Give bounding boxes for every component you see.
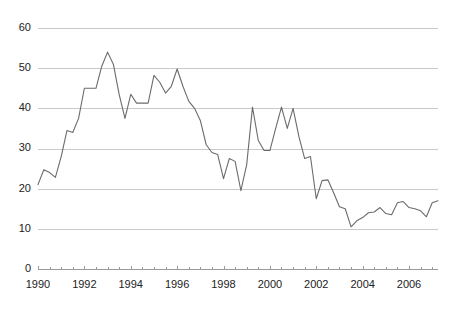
x-axis-tick-labels: 199019921994199619982000200220042006: [26, 278, 421, 290]
x-tick-label-1996: 1996: [165, 278, 189, 290]
x-tick-label-2002: 2002: [304, 278, 328, 290]
x-tick-label-1994: 1994: [119, 278, 143, 290]
y-tick-label-50: 50: [19, 61, 31, 73]
x-tick-label-2006: 2006: [397, 278, 421, 290]
y-axis-tick-labels: 0102030405060: [19, 21, 31, 274]
series-line-1: [38, 52, 438, 227]
x-tickmarks: [39, 266, 433, 270]
gridlines: [38, 29, 438, 230]
y-tick-label-10: 10: [19, 222, 31, 234]
y-tick-label-20: 20: [19, 182, 31, 194]
x-tick-label-1992: 1992: [72, 278, 96, 290]
x-tick-label-2000: 2000: [258, 278, 282, 290]
y-tick-label-30: 30: [19, 141, 31, 153]
chart-canvas: 0102030405060 19901992199419961998200020…: [0, 0, 469, 312]
y-tick-label-0: 0: [25, 262, 31, 274]
x-tick-label-2004: 2004: [350, 278, 374, 290]
line-chart: 0102030405060 19901992199419961998200020…: [0, 0, 469, 312]
y-tick-label-40: 40: [19, 101, 31, 113]
x-tick-label-1990: 1990: [26, 278, 50, 290]
y-tick-label-60: 60: [19, 21, 31, 33]
data-series: [38, 52, 438, 227]
x-tick-label-1998: 1998: [211, 278, 235, 290]
